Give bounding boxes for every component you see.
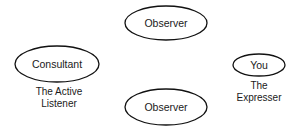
consultant-node: Consultant bbox=[15, 46, 99, 82]
observer-bottom-label: Observer bbox=[144, 101, 188, 113]
consultant-caption-line2: Listener bbox=[41, 98, 77, 109]
you-caption-line2: Expresser bbox=[236, 92, 282, 103]
you-label: You bbox=[250, 59, 268, 71]
you-caption-line1: The bbox=[250, 80, 268, 91]
consultant-label: Consultant bbox=[32, 58, 82, 70]
role-diagram: Observer Consultant The Active Listener … bbox=[0, 0, 300, 129]
consultant-caption-line1: The Active bbox=[36, 86, 83, 97]
observer-top-label: Observer bbox=[144, 17, 188, 29]
you-node: You bbox=[233, 54, 285, 76]
observer-bottom-node: Observer bbox=[125, 89, 207, 125]
observer-top-node: Observer bbox=[125, 6, 207, 40]
